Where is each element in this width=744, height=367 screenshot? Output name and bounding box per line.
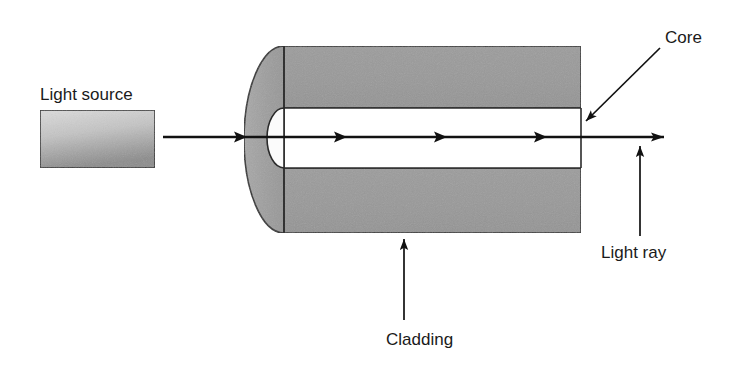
light-ray-label: Light ray xyxy=(601,243,667,262)
light-source-label: Light source xyxy=(40,85,133,104)
light-source-box xyxy=(40,110,155,168)
diagram-canvas: Light source xyxy=(0,0,744,367)
light-ray-callout: Light ray xyxy=(601,146,667,262)
cladding-callout: Cladding xyxy=(386,239,453,349)
cladding-upper-slab xyxy=(284,46,581,108)
fiber-group xyxy=(244,46,581,233)
cladding-lower-slab xyxy=(284,168,581,233)
core-label: Core xyxy=(665,28,702,47)
cladding-label: Cladding xyxy=(386,330,453,349)
light-source-group: Light source xyxy=(40,85,155,168)
core-leader-line xyxy=(586,48,660,121)
optical-fiber-diagram: Light source xyxy=(0,0,744,367)
core-callout: Core xyxy=(586,28,702,121)
